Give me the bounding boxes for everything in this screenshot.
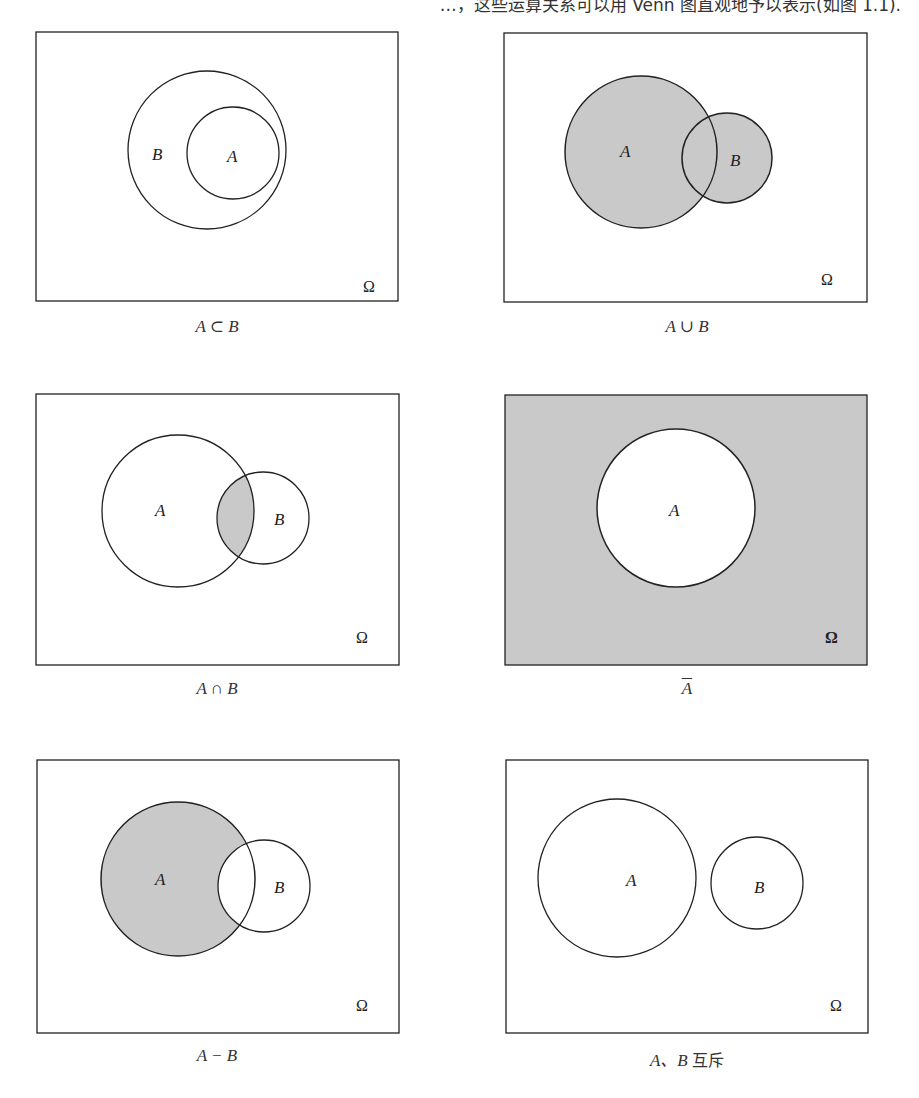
caption-union: A ∪ B	[587, 316, 787, 337]
universe-box	[36, 32, 398, 301]
label-b: B	[730, 151, 741, 170]
label-a: A	[625, 871, 637, 890]
universe-box	[506, 760, 868, 1033]
omega-label: Ω	[356, 997, 368, 1014]
complement-a-symbol: A	[682, 679, 692, 698]
caption-difference: A − B	[117, 1046, 317, 1066]
panel-disjoint: A B Ω	[506, 760, 868, 1033]
panel-complement: A Ω	[505, 395, 867, 665]
label-b: B	[274, 878, 285, 897]
disjoint-word: 互斥	[692, 1051, 724, 1070]
omega-label: Ω	[830, 997, 842, 1014]
omega-label: Ω	[363, 278, 375, 295]
label-b: B	[754, 878, 765, 897]
venn-diagram-figure: B A Ω A B Ω A B Ω A Ω A B Ω	[0, 0, 919, 1098]
panel-union: A B Ω	[504, 33, 867, 302]
caption-intersection: A ∩ B	[117, 679, 317, 699]
caption-subset: A ⊂ B	[117, 316, 317, 337]
panel-subset: B A Ω	[36, 32, 398, 301]
caption-disjoint: A、B 互斥	[587, 1046, 787, 1071]
panel-difference: A B Ω	[37, 760, 399, 1033]
label-b: B	[152, 145, 163, 164]
universe-box	[36, 394, 399, 665]
label-a: A	[226, 147, 238, 166]
panel-intersection: A B Ω	[36, 394, 399, 665]
caption-complement: A	[587, 679, 787, 699]
label-b: B	[274, 510, 285, 529]
disjoint-letters: A、B	[650, 1051, 688, 1070]
omega-label: Ω	[356, 629, 368, 646]
omega-label: Ω	[825, 629, 838, 646]
omega-label: Ω	[821, 271, 833, 288]
label-a: A	[619, 142, 631, 161]
label-a: A	[154, 501, 166, 520]
label-a: A	[668, 501, 680, 520]
label-a: A	[154, 870, 166, 889]
